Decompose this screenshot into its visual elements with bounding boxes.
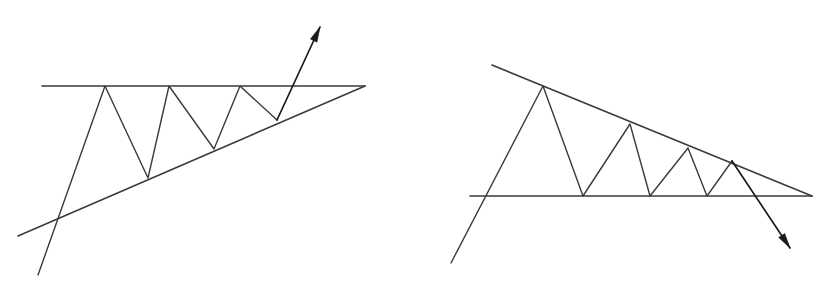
- triangle-patterns-diagram: [0, 0, 828, 282]
- figure-background: [0, 0, 828, 282]
- figure-root: [0, 0, 828, 282]
